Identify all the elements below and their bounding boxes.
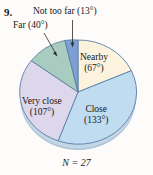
sample-size-caption: N = 27 [0, 157, 153, 168]
slice-label-nearby-degrees: (67°) [80, 63, 108, 74]
slice-label-close: Close (133°) [84, 104, 108, 125]
slice-label-nearby-name: Nearby [80, 52, 108, 63]
pie-chart-figure: 9. Not too far (13°) Far (40°) Nearby (6… [0, 0, 153, 175]
slice-label-very-close: Very close (107°) [22, 96, 62, 117]
slice-label-close-name: Close [84, 104, 108, 115]
slice-label-nearby: Nearby (67°) [80, 52, 108, 73]
callout-label-far: Far (40°) [13, 21, 48, 31]
pie-slices [20, 40, 137, 144]
sample-size-text: N = 27 [62, 157, 90, 168]
callout-label-not-too-far: Not too far (13°) [33, 7, 97, 17]
exercise-number: 9. [4, 7, 12, 18]
slice-label-very-close-name: Very close [22, 96, 62, 107]
slice-label-very-close-degrees: (107°) [22, 107, 62, 118]
slice-label-close-degrees: (133°) [84, 115, 108, 126]
